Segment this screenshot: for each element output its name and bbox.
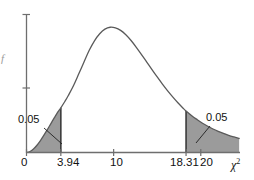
- x-axis-title: χ2: [231, 157, 240, 173]
- y-axis-title: f: [1, 52, 4, 64]
- chi-square-distribution-figure: f 0 3.94 10 18.31 20 χ2 0.05 0.05: [0, 0, 254, 180]
- left-area-label: 0.05: [18, 113, 39, 125]
- x-tick-label-20: 20: [200, 156, 213, 168]
- right-area-label: 0.05: [206, 111, 227, 123]
- x-tick-label-10: 10: [110, 156, 123, 168]
- x-tick-label-0: 0: [21, 156, 27, 168]
- x-tick-label-18-31: 18.31: [170, 156, 199, 168]
- x-axis-title-exponent: 2: [236, 157, 240, 166]
- x-tick-label-3-94: 3.94: [57, 156, 79, 168]
- chart-canvas: [0, 0, 254, 180]
